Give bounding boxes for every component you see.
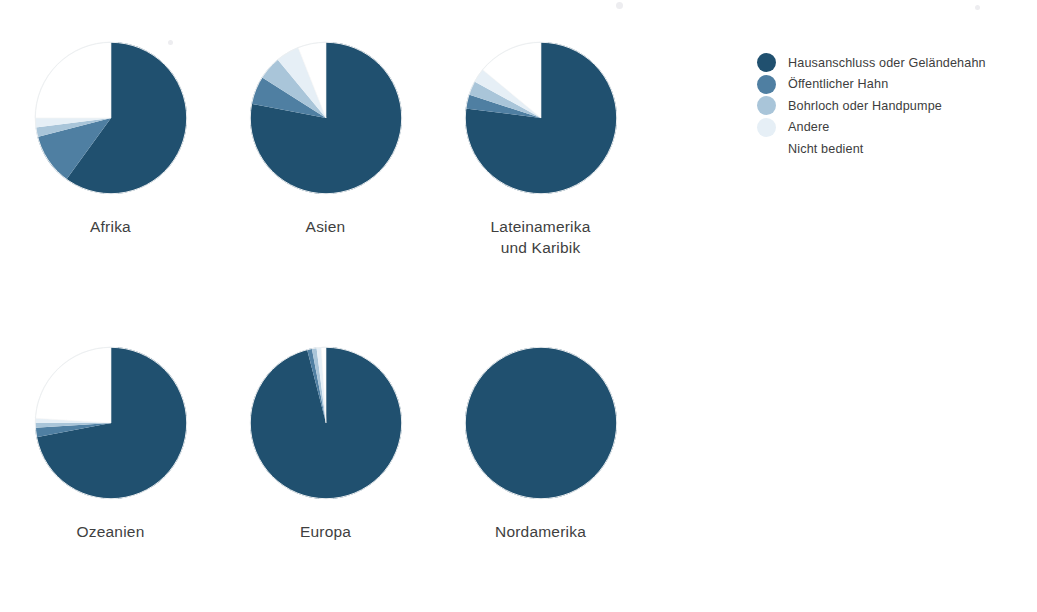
pie-cell-ozeanien: Ozeanien xyxy=(3,343,218,542)
pie-label-ozeanien: Ozeanien xyxy=(3,521,218,542)
pie-svg-europa xyxy=(246,343,406,503)
pie-svg-asien xyxy=(246,38,406,198)
pie-svg-nordamerika xyxy=(461,343,621,503)
pie-cell-nordamerika: Nordamerika xyxy=(433,343,648,542)
pie-chart-lateinamerika xyxy=(433,38,648,198)
scan-artifact xyxy=(975,5,980,10)
legend-item-oeffentlicher-hahn: Öffentlicher Hahn xyxy=(757,74,1032,96)
legend-label: Nicht bedient xyxy=(788,142,863,156)
pie-cell-afrika: Afrika xyxy=(3,38,218,237)
pie-label-lateinamerika: Lateinamerika und Karibik xyxy=(433,216,648,258)
legend-label: Hausanschluss oder Geländehahn xyxy=(788,56,986,70)
legend-swatch-icon xyxy=(757,53,776,72)
pie-slice xyxy=(35,347,111,423)
legend-item-bohrloch: Bohrloch oder Handpumpe xyxy=(757,95,1032,117)
pie-chart-ozeanien xyxy=(3,343,218,503)
legend-swatch-icon xyxy=(757,118,776,137)
pie-chart-europa xyxy=(218,343,433,503)
pie-chart-afrika xyxy=(3,38,218,198)
legend-label: Öffentlicher Hahn xyxy=(788,77,888,91)
pie-cell-lateinamerika: Lateinamerika und Karibik xyxy=(433,38,648,258)
pie-cell-europa: Europa xyxy=(218,343,433,542)
legend-item-nicht-bedient: Nicht bedient xyxy=(757,138,1032,160)
pie-label-afrika: Afrika xyxy=(3,216,218,237)
legend-label: Andere xyxy=(788,120,830,134)
pie-label-asien: Asien xyxy=(218,216,433,237)
chart-legend: Hausanschluss oder Geländehahn Öffentlic… xyxy=(757,52,1032,160)
pie-chart-nordamerika xyxy=(433,343,648,503)
pie-label-nordamerika: Nordamerika xyxy=(433,521,648,542)
pie-svg-lateinamerika-und-karibik xyxy=(461,38,621,198)
pie-slice xyxy=(35,42,111,118)
legend-label: Bohrloch oder Handpumpe xyxy=(788,99,942,113)
legend-swatch-icon xyxy=(757,96,776,115)
pie-svg-ozeanien xyxy=(31,343,191,503)
legend-item-andere: Andere xyxy=(757,117,1032,139)
pie-chart-asien xyxy=(218,38,433,198)
legend-item-hausanschluss: Hausanschluss oder Geländehahn xyxy=(757,52,1032,74)
pie-chart-grid: Afrika Asien Lateinamerika und Karibik O… xyxy=(0,0,700,612)
legend-swatch-icon xyxy=(757,75,776,94)
pie-cell-asien: Asien xyxy=(218,38,433,237)
legend-swatch-icon xyxy=(757,139,776,158)
pie-label-europa: Europa xyxy=(218,521,433,542)
pie-svg-afrika xyxy=(31,38,191,198)
